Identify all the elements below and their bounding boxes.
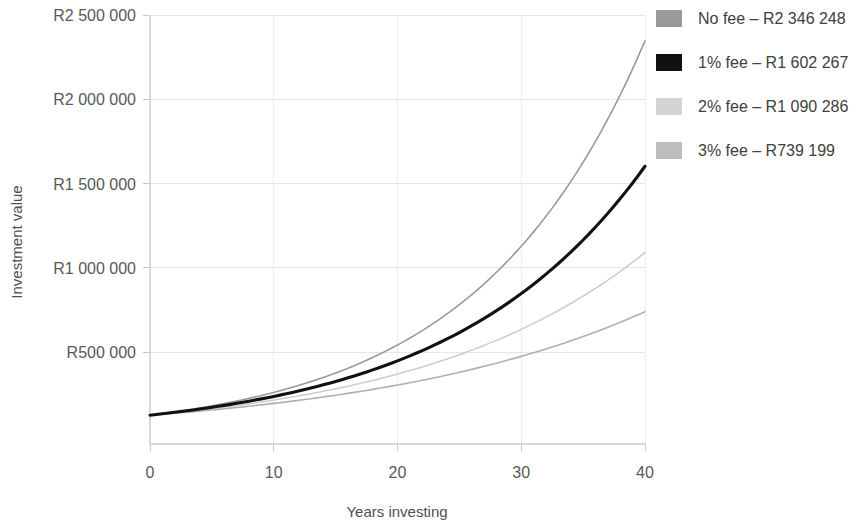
x-tick-label-20: 20 bbox=[389, 464, 407, 481]
x-tick-label-40: 40 bbox=[636, 464, 654, 481]
x-tick-label-30: 30 bbox=[512, 464, 530, 481]
legend-item-1-percent-fee[interactable]: 1% fee – R1 602 267 bbox=[656, 54, 848, 71]
legend-item-no-fee[interactable]: No fee – R2 346 248 bbox=[656, 10, 846, 27]
y-tick-labels: R2 500 000 R2 000 000 R1 500 000 R1 000 … bbox=[53, 7, 136, 361]
y-tick-label-500000: R500 000 bbox=[67, 344, 136, 361]
legend-swatch-no-fee bbox=[656, 10, 682, 27]
y-tick-marks bbox=[143, 15, 150, 352]
legend-item-2-percent-fee[interactable]: 2% fee – R1 090 286 bbox=[656, 98, 848, 115]
chart-canvas: R2 500 000 R2 000 000 R1 500 000 R1 000 … bbox=[0, 0, 868, 525]
legend-swatch-3-percent-fee bbox=[656, 142, 682, 159]
y-tick-label-2500000: R2 500 000 bbox=[53, 7, 136, 24]
y-axis-title: Investment value bbox=[8, 185, 25, 298]
y-tick-label-1000000: R1 000 000 bbox=[53, 260, 136, 277]
x-tick-marks bbox=[150, 444, 645, 451]
legend-label-2-percent-fee: 2% fee – R1 090 286 bbox=[698, 98, 848, 115]
y-tick-label-2000000: R2 000 000 bbox=[53, 91, 136, 108]
legend-swatch-1-percent-fee bbox=[656, 54, 682, 71]
legend-label-3-percent-fee: 3% fee – R739 199 bbox=[698, 142, 835, 159]
legend-label-1-percent-fee: 1% fee – R1 602 267 bbox=[698, 54, 848, 71]
legend-label-no-fee: No fee – R2 346 248 bbox=[698, 10, 846, 27]
x-tick-label-10: 10 bbox=[265, 464, 283, 481]
investment-fee-impact-chart: R2 500 000 R2 000 000 R1 500 000 R1 000 … bbox=[0, 0, 868, 525]
x-tick-labels: 0 10 20 30 40 bbox=[146, 464, 654, 481]
legend-item-3-percent-fee[interactable]: 3% fee – R739 199 bbox=[656, 142, 835, 159]
x-axis-title: Years investing bbox=[346, 503, 447, 520]
x-tick-label-0: 0 bbox=[146, 464, 155, 481]
legend-swatch-2-percent-fee bbox=[656, 98, 682, 115]
chart-legend: No fee – R2 346 248 1% fee – R1 602 267 … bbox=[656, 10, 848, 159]
y-tick-label-1500000: R1 500 000 bbox=[53, 176, 136, 193]
